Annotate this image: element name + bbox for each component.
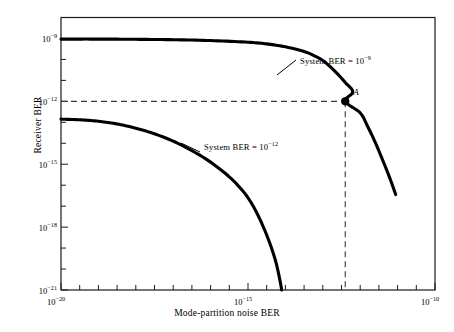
x-axis-title: Mode-partition noise BER: [0, 308, 454, 318]
y-tick-exponent: −15: [47, 158, 57, 165]
annotation-lower-exponent: −12: [268, 140, 278, 147]
point-a-marker: [341, 97, 349, 105]
x-tick-label: 10−20: [47, 295, 65, 307]
annotation-upper-curve: System BER = 10−9: [300, 54, 371, 66]
annotation-upper-exponent: −9: [364, 54, 371, 61]
y-tick-exponent: −12: [47, 95, 57, 102]
x-tick-mantissa: 10: [234, 297, 243, 307]
x-tick-exponent: −10: [430, 295, 440, 302]
point-a-label: A: [353, 87, 359, 97]
y-axis-ticks: [61, 18, 68, 291]
x-tick-mantissa: 10: [421, 297, 430, 307]
annotation-upper-text: System BER = 10: [300, 56, 364, 66]
y-tick-label: 10−9: [27, 32, 57, 44]
x-tick-mantissa: 10: [47, 297, 56, 307]
x-tick-label: 10−10: [421, 295, 439, 307]
x-tick-exponent: −15: [243, 295, 253, 302]
y-tick-label: 10−15: [27, 158, 57, 170]
y-tick-label: 10−12: [27, 95, 57, 107]
y-tick-exponent: −18: [47, 221, 57, 228]
x-axis-ticks: [61, 283, 435, 290]
annotation-lower-text: System BER = 10: [204, 142, 268, 152]
y-tick-label: 10−18: [27, 221, 57, 233]
leader-line-upper: [277, 60, 296, 75]
annotation-lower-curve: System BER = 10−12: [204, 140, 278, 152]
x-tick-exponent: −20: [56, 295, 66, 302]
chart-canvas: [0, 0, 454, 332]
y-tick-exponent: −9: [50, 32, 57, 39]
y-tick-exponent: −21: [47, 284, 57, 291]
y-tick-label: 10−21: [27, 284, 57, 296]
point-a-guide-lines: [61, 101, 345, 290]
figure-container: Receiver BER Mode-partition noise BER 10…: [0, 0, 454, 332]
x-tick-label: 10−15: [234, 295, 252, 307]
